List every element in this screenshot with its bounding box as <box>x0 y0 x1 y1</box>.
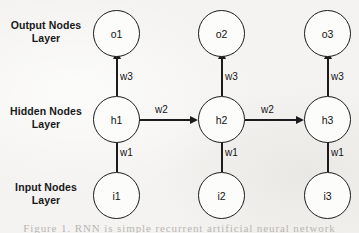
layer-label-hidden: Hidden Nodes Layer <box>0 105 92 130</box>
layer-label-input-line2: Layer <box>0 194 92 207</box>
node-i1-label: i1 <box>112 189 120 201</box>
node-i3-label: i3 <box>323 189 331 201</box>
node-o2-label: o2 <box>216 27 228 39</box>
layer-label-hidden-line1: Hidden Nodes <box>10 105 82 117</box>
weight-label-w1-3: w1 <box>331 147 344 158</box>
weight-label-w2-2: w2 <box>261 104 274 115</box>
node-h3-label: h3 <box>322 113 334 125</box>
node-h2-label: h2 <box>216 113 228 125</box>
node-i2-label: i2 <box>217 189 225 201</box>
rnn-figure: Output Nodes Layer Hidden Nodes Layer In… <box>0 0 359 233</box>
node-h1: h1 <box>93 96 140 143</box>
layer-label-output-line2: Layer <box>0 32 92 45</box>
node-o3-label: o3 <box>322 27 334 39</box>
arrow-h2-to-h3 <box>245 119 297 121</box>
figure-caption: Figure 1. RNN is simple recurrent artifi… <box>0 222 359 233</box>
arrow-h1-to-o1 <box>116 58 118 96</box>
node-h1-label: h1 <box>111 113 123 125</box>
node-o1-label: o1 <box>111 27 123 39</box>
layer-label-hidden-line2: Layer <box>0 118 92 131</box>
node-h3: h3 <box>304 96 351 143</box>
layer-label-output: Output Nodes Layer <box>0 19 92 44</box>
weight-label-w3-3: w3 <box>331 71 344 82</box>
arrow-h1-to-h2 <box>139 119 191 121</box>
layer-label-input: Input Nodes Layer <box>0 181 92 206</box>
node-o2: o2 <box>198 10 245 57</box>
node-o3: o3 <box>304 10 351 57</box>
node-i1: i1 <box>93 172 140 219</box>
layer-label-output-line1: Output Nodes <box>11 19 82 31</box>
node-o1: o1 <box>93 10 140 57</box>
weight-label-w3-1: w3 <box>120 71 133 82</box>
node-h2: h2 <box>198 96 245 143</box>
weight-label-w3-2: w3 <box>225 71 238 82</box>
arrow-h3-to-o3 <box>327 58 329 96</box>
weight-label-w2-1: w2 <box>155 104 168 115</box>
node-i2: i2 <box>198 172 245 219</box>
weight-label-w1-2: w1 <box>225 147 238 158</box>
layer-label-input-line1: Input Nodes <box>15 181 77 193</box>
arrow-h2-to-o2 <box>221 58 223 96</box>
weight-label-w1-1: w1 <box>120 147 133 158</box>
diagram-canvas: Output Nodes Layer Hidden Nodes Layer In… <box>0 0 359 233</box>
node-i3: i3 <box>304 172 351 219</box>
